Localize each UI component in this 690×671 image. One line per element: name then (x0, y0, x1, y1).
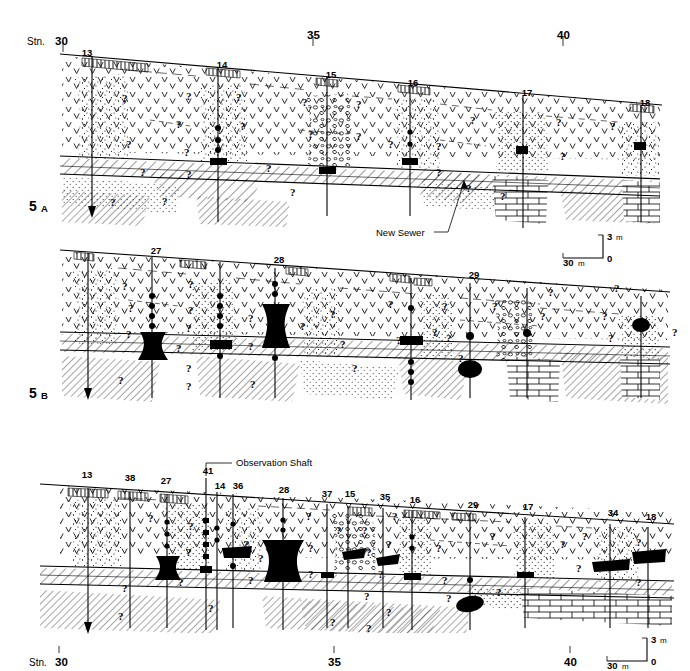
query-marker: ? (500, 190, 506, 202)
panel-number: 5 (29, 198, 37, 214)
cross-section-sheet: ? ? ? ? ? ? ? ? ? ? ? ? ? ? ? ? ? ? ? ? … (0, 0, 690, 671)
query-marker: ? (388, 138, 394, 150)
query-marker: ? (330, 616, 336, 628)
station-labels-5A: Stn. 30 35 40 (27, 29, 570, 47)
scale-horizontal-value: 30 (607, 660, 618, 671)
borehole-label-18: 18 (640, 97, 651, 108)
query-marker: ? (386, 606, 392, 618)
query-marker: ? (186, 90, 192, 102)
borehole-label-13: 13 (82, 47, 93, 58)
query-marker: ? (340, 338, 346, 350)
query-marker: ? (118, 374, 124, 386)
query-marker: ? (352, 362, 358, 374)
panel-id-5B: 5 B (29, 385, 48, 401)
query-marker: ? (186, 362, 192, 374)
new-sewer-label: New Sewer (376, 227, 425, 238)
query-marker: ? (244, 538, 250, 550)
query-marker: ? (122, 582, 128, 594)
observation-shaft-label: Observation Shaft (236, 457, 312, 468)
query-marker: ? (446, 592, 452, 604)
query-marker: ? (432, 326, 438, 338)
scale-origin: 0 (651, 656, 656, 667)
query-marker: ? (176, 342, 182, 354)
station-prefix: Stn. (29, 657, 47, 668)
scale-vertical-value: 3 (651, 634, 656, 645)
scale-origin: 0 (607, 253, 612, 264)
query-marker: ? (540, 310, 546, 322)
station-axis-5C: Stn. 30 35 40 (29, 646, 577, 668)
scale-horizontal-unit: m (622, 662, 629, 671)
borehole-label-18: 18 (646, 511, 657, 522)
query-marker: ? (186, 380, 192, 392)
borehole-label-27: 27 (151, 245, 162, 256)
panel-5C: ? ? ? ? ? ? ? ? ? ? ? ? ? ? ? ? ? ? ? ? … (29, 457, 674, 671)
annotation-observation-shaft: Observation Shaft (206, 457, 312, 476)
query-marker: ? (576, 562, 582, 574)
borehole-label-38: 38 (125, 472, 136, 483)
query-marker: ? (378, 568, 384, 580)
query-marker: ? (248, 312, 254, 324)
query-marker: ? (560, 538, 566, 550)
query-marker: ? (128, 302, 134, 314)
query-marker: ? (492, 300, 498, 312)
query-marker: ? (392, 510, 398, 522)
borehole-label-15: 15 (326, 69, 337, 80)
query-marker: ? (366, 546, 372, 558)
query-marker: ? (258, 552, 264, 564)
query-marker: ? (330, 308, 336, 320)
query-marker: ? (356, 98, 362, 110)
query-marker: ? (490, 530, 496, 542)
query-marker: ? (610, 120, 616, 132)
query-marker: ? (186, 322, 192, 334)
query-marker: ? (608, 332, 614, 344)
borehole-label-28: 28 (274, 254, 285, 265)
panel-number: 5 (29, 385, 37, 401)
station-label-40: 40 (564, 656, 577, 668)
query-marker: ? (188, 520, 194, 532)
borehole-label-29: 29 (468, 499, 479, 510)
query-marker: ? (122, 280, 128, 292)
query-marker: ? (442, 300, 448, 312)
scale-vertical-value: 3 (607, 231, 612, 242)
query-marker: ? (110, 196, 116, 208)
scale-horizontal-value: 30 (563, 257, 574, 268)
borehole-label-36: 36 (233, 480, 244, 491)
query-marker: ? (636, 576, 642, 588)
query-marker: ? (582, 530, 588, 542)
borehole-label-14: 14 (215, 480, 226, 491)
station-label-40: 40 (557, 29, 570, 41)
station-label-30: 30 (55, 35, 68, 47)
query-marker: ? (602, 310, 608, 322)
query-marker: ? (266, 162, 272, 174)
query-marker: ? (122, 92, 128, 104)
query-marker: ? (364, 590, 370, 602)
scale-vertical-unit: m (616, 233, 623, 242)
query-marker: ? (366, 622, 372, 634)
query-marker: ? (636, 536, 642, 548)
query-marker: ? (308, 128, 314, 140)
borehole-label-17: 17 (523, 501, 534, 512)
borehole-label-17: 17 (522, 87, 533, 98)
query-marker: ? (126, 138, 132, 150)
station-label-35: 35 (307, 29, 320, 41)
borehole-label-16: 16 (410, 494, 421, 505)
query-marker: ? (308, 568, 314, 580)
query-marker: ? (118, 610, 124, 622)
scale-bar-5A: 3 m 30 m 0 (563, 231, 623, 268)
query-marker: ? (140, 166, 146, 178)
borehole-label-37: 37 (322, 488, 333, 499)
query-marker: ? (386, 538, 392, 550)
query-marker: ? (548, 286, 554, 298)
query-marker: ? (188, 278, 194, 290)
query-marker: ? (236, 91, 242, 103)
query-marker: ? (396, 334, 402, 346)
borehole-label-35: 35 (380, 491, 391, 502)
query-marker: ? (560, 150, 566, 162)
panel-5A: ? ? ? ? ? ? ? ? ? ? ? ? ? ? ? ? ? ? ? ? … (27, 29, 662, 268)
station-label-30: 30 (55, 656, 68, 668)
borehole-label-16: 16 (408, 77, 419, 88)
query-marker: ? (436, 542, 442, 554)
panel-letter: B (41, 390, 48, 401)
query-marker: ? (356, 130, 362, 142)
query-marker: ? (188, 304, 194, 316)
